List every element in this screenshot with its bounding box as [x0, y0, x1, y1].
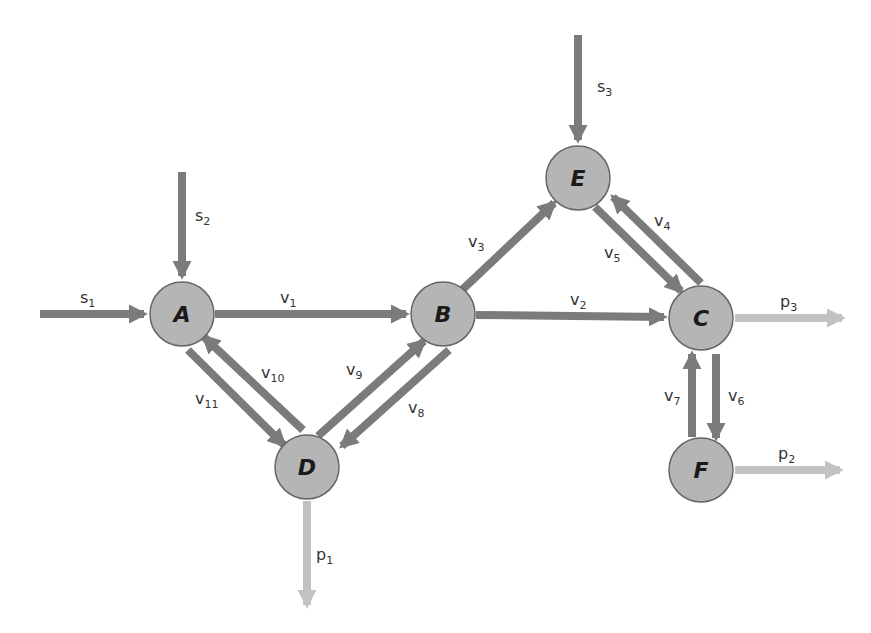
node-b: B — [411, 282, 475, 346]
node-label-f: F — [693, 458, 708, 483]
flux-label-v5: v5 — [604, 243, 620, 265]
node-label-e: E — [570, 166, 585, 191]
flux-label-p2: p2 — [778, 444, 795, 466]
flux-network-diagram: s1 s2 s3 p1 p2 p3 v1 v2 v3 v4 v5 — [0, 0, 871, 633]
edge-v3: v3 — [462, 203, 554, 290]
flux-label-v10: v10 — [261, 363, 284, 385]
flux-label-v2: v2 — [570, 290, 586, 312]
node-label-c: C — [693, 306, 709, 331]
flux-label-p1: p1 — [316, 545, 333, 567]
flux-label-v9: v9 — [346, 360, 362, 382]
node-c: C — [669, 286, 733, 350]
edge-v7: v7 — [664, 354, 692, 437]
edge-v6: v6 — [716, 354, 744, 438]
node-label-d: D — [298, 455, 316, 480]
flux-label-v11: v11 — [195, 389, 218, 411]
input-flux-s2: s2 — [182, 172, 210, 276]
edge-v1: v1 — [215, 288, 406, 314]
flux-label-s2: s2 — [195, 206, 210, 228]
node-label-b: B — [435, 302, 452, 327]
output-flux-p1: p1 — [307, 501, 333, 605]
input-flux-s3: s3 — [578, 35, 612, 140]
input-flux-s1: s1 — [40, 288, 144, 314]
node-label-a: A — [171, 302, 190, 327]
edge-v2: v2 — [476, 290, 664, 317]
flux-label-v1: v1 — [280, 288, 296, 310]
flux-label-p3: p3 — [780, 292, 797, 314]
node-e: E — [546, 146, 610, 210]
flux-label-v7: v7 — [664, 386, 680, 408]
output-flux-p3: p3 — [735, 292, 842, 318]
node-a: A — [150, 282, 214, 346]
flux-label-v8: v8 — [408, 398, 424, 420]
flux-label-s1: s1 — [80, 288, 95, 310]
node-f: F — [669, 438, 733, 502]
flux-label-v6: v6 — [728, 386, 744, 408]
flux-label-v4: v4 — [654, 211, 670, 233]
flux-label-v3: v3 — [468, 232, 484, 254]
node-d: D — [275, 435, 339, 499]
output-flux-p2: p2 — [735, 444, 840, 470]
flux-label-s3: s3 — [597, 77, 612, 99]
